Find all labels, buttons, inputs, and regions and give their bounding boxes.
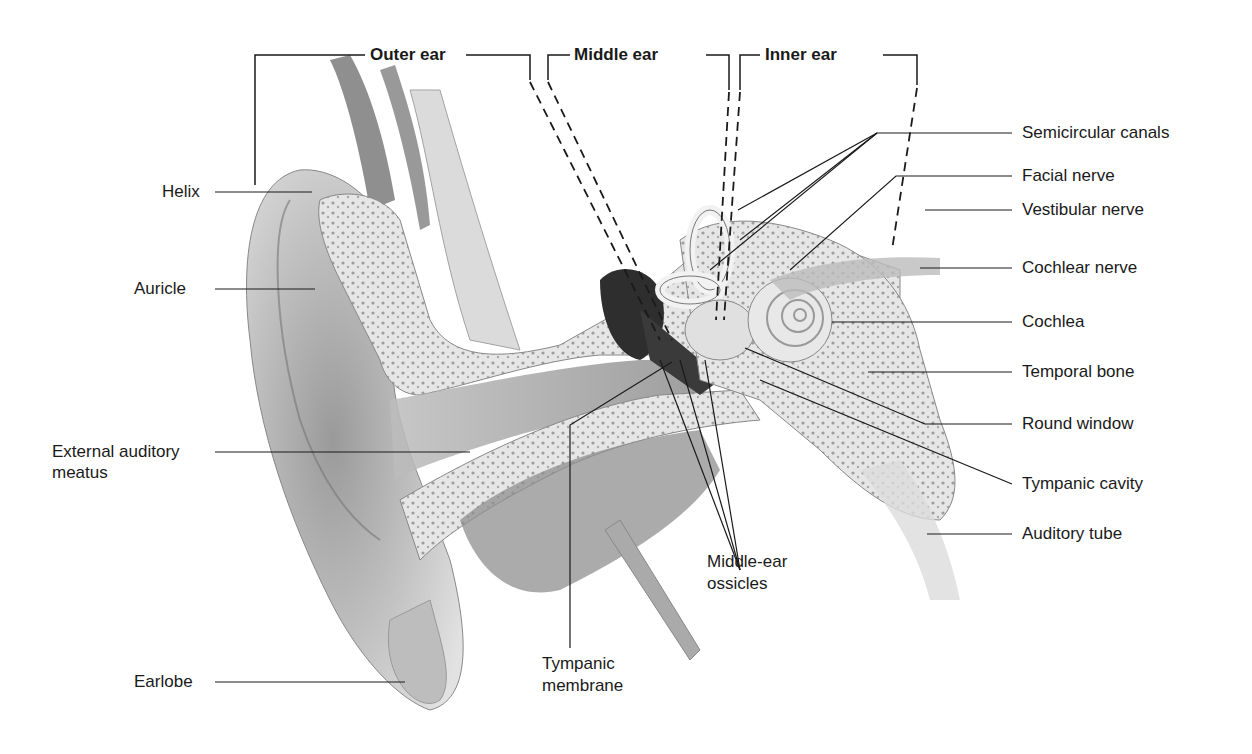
region-label-inner-ear: Inner ear	[765, 45, 837, 65]
label-earlobe: Earlobe	[134, 672, 193, 692]
label-tympanic-cavity: Tympanic cavity	[1022, 474, 1143, 494]
region-label-middle-ear: Middle ear	[574, 45, 658, 65]
label-external-auditory-meatus-line1: External auditory	[52, 442, 180, 462]
label-cochlea: Cochlea	[1022, 312, 1084, 332]
label-vestibular-nerve: Vestibular nerve	[1022, 200, 1144, 220]
label-middle-ear-ossicles-line1: Middle-ear	[707, 552, 787, 572]
label-cochlear-nerve: Cochlear nerve	[1022, 258, 1137, 278]
label-round-window: Round window	[1022, 414, 1134, 434]
label-tympanic-membrane-line1: Tympanic	[542, 654, 615, 674]
label-middle-ear-ossicles-line2: ossicles	[707, 574, 767, 594]
label-external-auditory-meatus-line2: meatus	[52, 463, 108, 483]
label-helix: Helix	[162, 182, 200, 202]
region-label-outer-ear: Outer ear	[370, 45, 446, 65]
label-tympanic-membrane-line2: membrane	[542, 676, 623, 696]
label-auditory-tube: Auditory tube	[1022, 524, 1122, 544]
label-auricle: Auricle	[134, 279, 186, 299]
label-semicircular-canals: Semicircular canals	[1022, 123, 1169, 143]
label-facial-nerve: Facial nerve	[1022, 166, 1115, 186]
label-temporal-bone: Temporal bone	[1022, 362, 1134, 382]
